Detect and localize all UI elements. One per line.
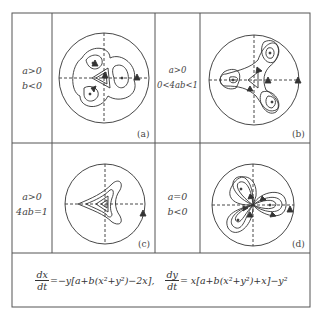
dx-denominator: dt (37, 281, 47, 292)
phase-portrait-c (65, 164, 146, 244)
condition-c-2: 4ab=1 (12, 204, 52, 219)
condition-b-2: 0<4ab<1 (155, 78, 200, 93)
condition-a-2: b<0 (12, 78, 52, 93)
phase-portrait-a (59, 33, 149, 123)
condition-c-1: a>0 (12, 189, 52, 204)
dy-numerator: dy (165, 269, 178, 281)
phase-portrait-d (212, 164, 294, 246)
panel-label-d: (d) (292, 239, 305, 249)
dx-numerator: dx (35, 269, 48, 281)
dy-rhs: = x[a+b(x²+y²)+x]−y² (180, 275, 288, 286)
condition-c: a>0 4ab=1 (12, 189, 52, 219)
dx-rhs: =−y[a+b(x²+y²)−2x], (50, 275, 155, 286)
dy-denominator: dt (167, 281, 177, 292)
condition-d: a=0 b<0 (155, 189, 200, 219)
phase-portrait-b (209, 35, 301, 125)
condition-b-1: a>0 (155, 63, 200, 78)
condition-a: a>0 b<0 (12, 63, 52, 93)
dy-dt-fraction: dy dt (165, 269, 178, 292)
system-equations: dx dt =−y[a+b(x²+y²)−2x], dy dt = x[a+b(… (12, 253, 310, 307)
panel-label-a: (a) (137, 129, 149, 139)
condition-d-2: b<0 (155, 204, 200, 219)
dx-dt-fraction: dx dt (35, 269, 48, 292)
panel-label-c: (c) (138, 239, 150, 249)
condition-d-1: a=0 (155, 189, 200, 204)
panel-label-b: (b) (292, 129, 305, 139)
condition-a-1: a>0 (12, 63, 52, 78)
condition-b: a>0 0<4ab<1 (155, 63, 200, 93)
